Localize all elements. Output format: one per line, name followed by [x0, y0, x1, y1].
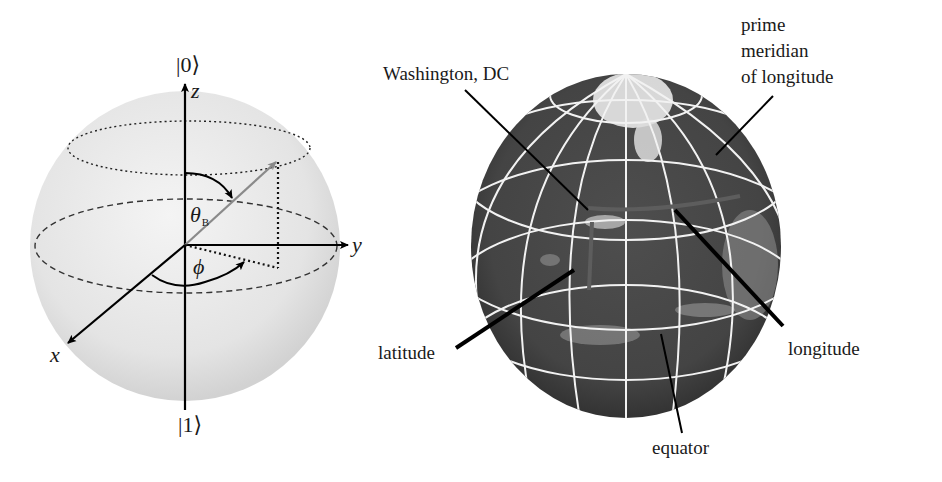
equator-label: equator [652, 437, 709, 459]
theta-b-label: θB [190, 202, 209, 229]
theta-subscript: B [202, 216, 209, 228]
longitude-label: longitude [788, 338, 860, 360]
phi-label: ϕ [193, 254, 204, 279]
prime-meridian-label-line2: meridian [741, 40, 809, 62]
ket-one-label: |1⟩ [178, 412, 202, 437]
latitude-label: latitude [378, 342, 435, 364]
y-axis-label: y [352, 232, 362, 257]
z-axis-label: z [191, 78, 200, 103]
globe-diagram: Washington, DC prime meridian of longitu… [370, 0, 942, 482]
ket-zero-label: |0⟩ [176, 52, 200, 77]
bloch-sphere-diagram: |0⟩ |1⟩ z y x θB ϕ [0, 0, 380, 482]
prime-meridian-label-line1: prime [741, 14, 785, 36]
x-axis-label: x [50, 342, 60, 367]
washington-label: Washington, DC [383, 63, 509, 85]
prime-meridian-label-line3: of longitude [741, 66, 833, 88]
theta-symbol: θ [190, 202, 201, 227]
